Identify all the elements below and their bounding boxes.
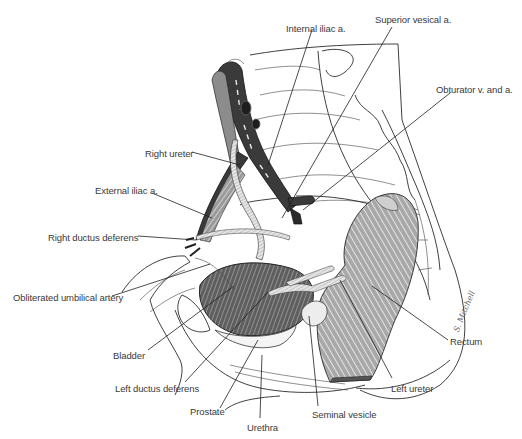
label-left-ureter: Left ureter [391,384,433,394]
label-rectum: Rectum [450,337,482,347]
label-right-ductus-deferens: Right ductus deferens [48,233,138,243]
pelvis-illustration [0,0,522,439]
anatomical-figure: S. Mitchell Internal iliac a. Superior v… [0,0,522,439]
label-obliterated-umbilical-artery: Obliterated umbilical artery [13,293,123,303]
label-bladder: Bladder [113,351,145,361]
label-left-ductus-deferens: Left ductus deferens [115,384,199,394]
iliac-vessels [185,59,315,256]
label-external-iliac-a: External iliac a. [95,186,158,196]
label-urethra: Urethra [247,423,278,433]
bladder-shape [199,263,313,348]
label-prostate: Prostate [190,407,225,417]
label-superior-vesical-a: Superior vesical a. [375,15,451,25]
label-seminal-vesicle: Seminal vesicle [312,410,377,420]
label-right-ureter: Right ureter [145,149,193,159]
label-internal-iliac-a: Internal iliac a. [286,24,346,34]
rectum-shape [317,194,418,382]
label-obturator-v-and-a: Obturator v. and a. [436,85,513,95]
